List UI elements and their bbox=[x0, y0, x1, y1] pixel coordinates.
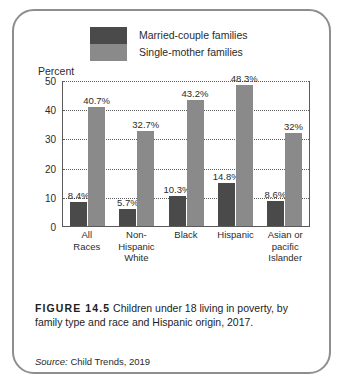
figure-source: Source: Child Trends, 2019 bbox=[35, 356, 150, 367]
bar-group-black: 10.3% 43.2% bbox=[161, 81, 210, 226]
bar-label-married-couple-non-hispanic-white: 5.7% bbox=[117, 197, 139, 208]
bar-single-mother-black[interactable]: 43.2% bbox=[187, 100, 204, 226]
source-text: Child Trends, 2019 bbox=[70, 356, 150, 367]
x-label-line: Races bbox=[62, 241, 112, 253]
legend-swatch-married-couple bbox=[90, 27, 127, 44]
x-label-line: Non- bbox=[112, 229, 162, 241]
bar-single-mother-asian-or-pacific-islander[interactable]: 32% bbox=[285, 133, 302, 226]
chart-plot-area: 50 40 30 20 10 0 8.4% 40.7% bbox=[38, 81, 310, 247]
x-label-line: White bbox=[112, 252, 162, 264]
bar-label-married-couple-all-races: 8.4% bbox=[68, 190, 90, 201]
x-label-line: Hispanic bbox=[112, 241, 162, 253]
bar-group-asian-or-pacific-islander: 8.6% 32% bbox=[260, 81, 309, 226]
y-axis: 50 40 30 20 10 0 bbox=[38, 81, 60, 227]
legend-label-single-mother: Single-mother families bbox=[139, 44, 243, 61]
y-tick-20: 20 bbox=[45, 163, 56, 174]
x-label-line: Hispanic bbox=[211, 229, 261, 241]
figure-number: FIGURE 14.5 bbox=[35, 302, 110, 314]
bar-single-mother-all-races[interactable]: 40.7% bbox=[88, 107, 105, 226]
source-label: Source: bbox=[35, 356, 68, 367]
x-label-all-races: All Races bbox=[62, 229, 112, 264]
y-tick-0: 0 bbox=[50, 222, 56, 233]
bar-married-couple-hispanic[interactable]: 14.8% bbox=[218, 183, 235, 226]
bar-label-single-mother-black: 43.2% bbox=[182, 88, 209, 99]
y-tick-10: 10 bbox=[45, 192, 56, 203]
y-tick-50: 50 bbox=[45, 76, 56, 87]
legend-item-single-mother: Single-mother families bbox=[90, 44, 320, 61]
bar-single-mother-hispanic[interactable]: 48.3% bbox=[236, 85, 253, 226]
x-label-line: All bbox=[62, 229, 112, 241]
bar-group-hispanic: 14.8% 48.3% bbox=[211, 81, 260, 226]
x-label-hispanic: Hispanic bbox=[211, 229, 261, 264]
figure-card: Married-couple families Single-mother fa… bbox=[12, 9, 331, 374]
legend-label-married-couple: Married-couple families bbox=[139, 27, 248, 44]
bar-married-couple-non-hispanic-white[interactable]: 5.7% bbox=[119, 209, 136, 226]
x-label-non-hispanic-white: Non- Hispanic White bbox=[112, 229, 162, 264]
x-label-asian-or-pacific-islander: Asian or pacific Islander bbox=[260, 229, 310, 264]
bar-group-all-races: 8.4% 40.7% bbox=[63, 81, 112, 226]
bar-single-mother-non-hispanic-white[interactable]: 32.7% bbox=[137, 131, 154, 227]
bar-married-couple-asian-or-pacific-islander[interactable]: 8.6% bbox=[267, 201, 284, 226]
y-axis-title: Percent bbox=[38, 65, 74, 77]
x-label-black: Black bbox=[161, 229, 211, 264]
plot-frame: 8.4% 40.7% 5.7% 32.7% 10.3 bbox=[62, 81, 310, 227]
y-tick-30: 30 bbox=[45, 134, 56, 145]
y-tick-40: 40 bbox=[45, 105, 56, 116]
x-label-line: Black bbox=[161, 229, 211, 241]
bar-group-non-hispanic-white: 5.7% 32.7% bbox=[112, 81, 161, 226]
legend-swatch-single-mother bbox=[90, 44, 127, 61]
x-label-line: pacific Islander bbox=[260, 241, 310, 264]
bar-married-couple-all-races[interactable]: 8.4% bbox=[70, 202, 87, 227]
x-label-line: Asian or bbox=[260, 229, 310, 241]
bar-label-single-mother-non-hispanic-white: 32.7% bbox=[132, 119, 159, 130]
figure-caption: FIGURE 14.5 Children under 18 living in … bbox=[35, 302, 309, 329]
bar-married-couple-black[interactable]: 10.3% bbox=[169, 196, 186, 226]
legend-item-married-couple: Married-couple families bbox=[90, 27, 320, 44]
bar-label-single-mother-all-races: 40.7% bbox=[83, 95, 110, 106]
chart-legend: Married-couple families Single-mother fa… bbox=[90, 27, 320, 61]
bar-label-single-mother-hispanic: 48.3% bbox=[231, 73, 258, 84]
bar-label-single-mother-asian-or-pacific-islander: 32% bbox=[284, 121, 303, 132]
x-axis-category-labels: All Races Non- Hispanic White Black Hisp… bbox=[62, 229, 310, 264]
bar-groups: 8.4% 40.7% 5.7% 32.7% 10.3 bbox=[63, 81, 309, 226]
bar-label-married-couple-asian-or-pacific-islander: 8.6% bbox=[265, 189, 287, 200]
